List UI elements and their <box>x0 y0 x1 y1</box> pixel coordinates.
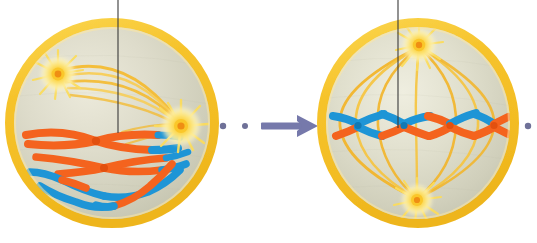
mitosis-illustration-canvas <box>0 0 537 243</box>
connector-dot-1 <box>220 123 226 129</box>
mitosis-figure <box>0 0 537 243</box>
cell-right <box>322 23 514 224</box>
edge-dot-right <box>525 123 531 129</box>
connector-dot-2 <box>242 123 248 129</box>
cell-left <box>10 23 214 223</box>
